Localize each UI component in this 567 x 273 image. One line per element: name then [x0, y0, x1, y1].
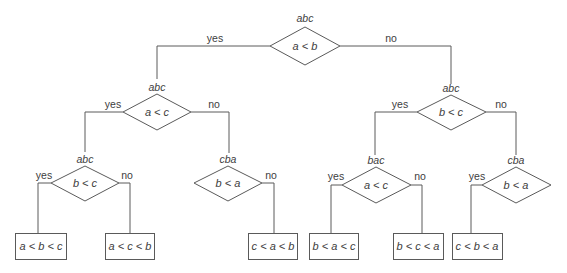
leaf-label: a < c < b [109, 240, 152, 252]
edge-root-no [340, 46, 451, 84]
edge-ll-yes [38, 183, 51, 234]
node-state: bac [368, 154, 386, 166]
edge-rl-yes [331, 185, 342, 234]
node-condition: b < a [216, 177, 241, 189]
node-condition: b < c [439, 106, 464, 118]
decision-node-r: abc b < c [417, 82, 486, 130]
node-condition: b < a [504, 179, 529, 191]
edge-ll-no [119, 183, 130, 234]
decision-node-l: abc a < c [123, 81, 191, 130]
decision-node-rr: cba b < a [482, 154, 551, 203]
label-no: no [208, 98, 220, 110]
node-state: abc [443, 82, 461, 94]
node-condition: a < c [145, 106, 170, 118]
edge-root-yes [157, 46, 270, 79]
label-no: no [121, 169, 133, 181]
label-yes: yes [105, 98, 121, 110]
label-yes: yes [207, 32, 223, 44]
node-state: cba [220, 153, 237, 165]
decision-node-root: abc a < b [270, 12, 340, 65]
node-condition: b < c [73, 177, 98, 189]
node-condition: a < c [364, 179, 389, 191]
node-state: abc [149, 81, 167, 93]
leaf-label: a < b < c [20, 240, 63, 252]
leaf-node: a < c < b [106, 234, 155, 260]
label-yes: yes [36, 169, 52, 181]
edge-r-yes [375, 112, 417, 155]
leaf-label: c < a < b [252, 240, 295, 252]
leaf-node: b < c < a [394, 234, 444, 260]
label-no: no [495, 98, 507, 110]
leaf-node: c < b < a [453, 234, 503, 260]
node-state: abc [77, 153, 95, 165]
edge-rr-yes [471, 185, 482, 234]
decision-node-lr: cba b < a [194, 153, 262, 201]
node-state: abc [297, 12, 315, 24]
node-condition: a < b [293, 40, 318, 52]
label-no: no [265, 169, 277, 181]
label-yes: yes [392, 98, 408, 110]
decision-tree-diagram: abc a < b abc a < c abc b < c cba b < a … [0, 0, 567, 273]
label-yes: yes [328, 170, 344, 182]
node-state: cba [508, 154, 525, 166]
decision-node-ll: abc b < c [51, 153, 119, 201]
edge-l-yes [85, 112, 123, 152]
leaf-label: b < c < a [397, 240, 440, 252]
edge-rl-no [411, 185, 422, 234]
edges [38, 46, 516, 234]
label-no: no [385, 32, 397, 44]
leaf-label: b < a < c [313, 240, 356, 252]
leaf-node: c < a < b [249, 234, 298, 260]
decision-node-rl: bac a < c [342, 154, 411, 203]
leaf-label: c < b < a [456, 240, 499, 252]
edge-l-no [191, 112, 229, 153]
edge-lr-no [262, 183, 274, 234]
leaf-node: a < b < c [16, 234, 67, 260]
leaf-node: b < a < c [310, 234, 359, 260]
label-no: no [414, 170, 426, 182]
edge-r-no [486, 112, 516, 155]
label-yes: yes [469, 170, 485, 182]
